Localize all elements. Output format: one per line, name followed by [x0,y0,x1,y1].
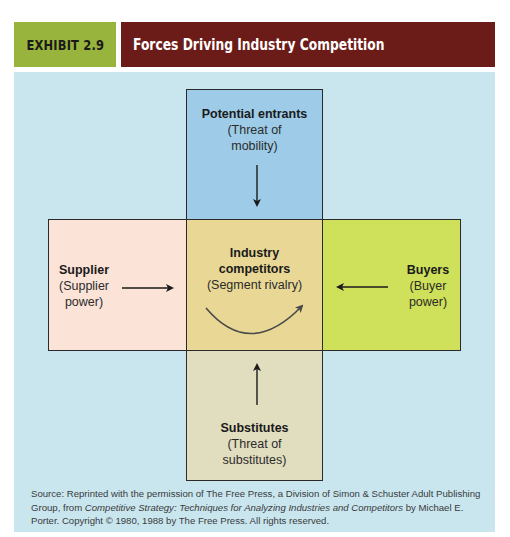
curved-rivalry-arrow-icon [206,306,302,334]
source-book-title: Competitive Strategy: Techniques for Ana… [85,502,403,513]
source-citation: Source: Reprinted with the permission of… [31,487,486,528]
arrows-layer [0,0,510,537]
